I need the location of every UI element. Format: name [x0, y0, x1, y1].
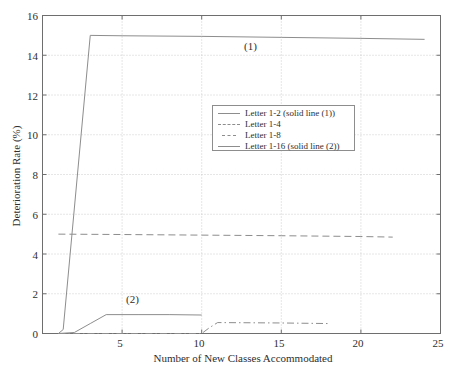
legend-label-2: Letter 1-8: [245, 130, 281, 141]
legend-label-1: Letter 1-4: [245, 119, 281, 130]
y-axis-label: Deterioration Rate (%): [10, 106, 22, 246]
xtick-label-5: 5: [108, 337, 132, 349]
legend-entry-3: Letter 1-16 (solid line (2)): [213, 141, 356, 152]
ytick-label-14: 14: [16, 50, 38, 62]
legend-entry-2: Letter 1-8: [213, 130, 356, 141]
plot-area: [0, 0, 456, 374]
series-line-2: [58, 323, 329, 334]
series-line-3: [58, 315, 201, 334]
chart-figure: 0 2 4 6 8 10 12 14 16 5 10 15 20 25 Dete…: [0, 0, 456, 374]
series-line-1: [58, 234, 392, 237]
gridlines: [43, 16, 441, 334]
ytick-label-4: 4: [16, 249, 38, 261]
series-line-0: [58, 35, 424, 333]
xtick-label-10: 10: [187, 337, 211, 349]
x-axis-label: Number of New Classes Accommodated: [120, 352, 366, 364]
legend-entry-1: Letter 1-4: [213, 119, 356, 130]
ytick-label-16: 16: [16, 10, 38, 22]
legend-line-sample-dashed: [218, 124, 240, 126]
legend: Letter 1-2 (solid line (1)) Letter 1-4 L…: [212, 105, 355, 151]
xtick-label-25: 25: [426, 337, 450, 349]
legend-line-sample-dashdot: [222, 135, 236, 137]
ytick-label-0: 0: [16, 328, 38, 340]
legend-entry-0: Letter 1-2 (solid line (1)): [213, 108, 356, 119]
annotation-one: (1): [244, 40, 257, 52]
legend-line-sample-solid-2: [218, 146, 240, 148]
xtick-label-20: 20: [346, 337, 370, 349]
ytick-label-2: 2: [16, 288, 38, 300]
legend-label-0: Letter 1-2 (solid line (1)): [245, 108, 335, 119]
legend-line-sample-solid-1: [218, 113, 240, 115]
legend-label-3: Letter 1-16 (solid line (2)): [245, 141, 339, 152]
annotation-two: (2): [126, 293, 139, 305]
xtick-label-15: 15: [267, 337, 291, 349]
ytick-label-12: 12: [16, 90, 38, 102]
data-series: [58, 35, 424, 333]
